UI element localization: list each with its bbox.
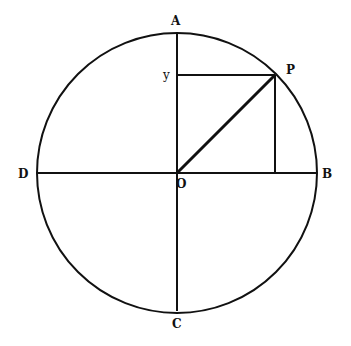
label-O: O <box>176 177 186 191</box>
diagram: A B C D O P y <box>0 0 351 346</box>
radius-OP <box>177 75 275 173</box>
label-P: P <box>286 63 295 77</box>
label-y: y <box>162 68 170 82</box>
unit-circle-diagram: A B C D O P y <box>0 0 351 346</box>
label-D: D <box>18 167 28 181</box>
label-B: B <box>322 167 332 181</box>
label-A: A <box>170 14 181 28</box>
label-C: C <box>172 317 182 331</box>
